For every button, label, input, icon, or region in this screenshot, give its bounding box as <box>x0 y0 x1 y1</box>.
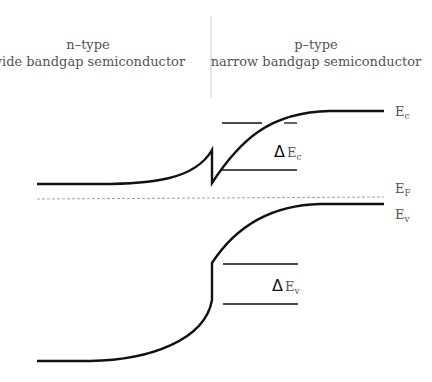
ef-label: EF <box>395 181 411 198</box>
fermi-level-line <box>37 197 384 199</box>
right-type-label: p–type <box>294 37 338 52</box>
valence-band-edge <box>37 204 384 361</box>
left-type-label: n–type <box>66 37 110 52</box>
delta-ec-label: ΔEc <box>274 142 302 162</box>
heterojunction-svg: n–type wide bandgap semiconductor p–type… <box>0 0 432 382</box>
ev-label: Ev <box>395 207 411 224</box>
delta-ev-label: ΔEv <box>272 276 300 296</box>
band-diagram: n–type wide bandgap semiconductor p–type… <box>0 0 432 382</box>
conduction-band-edge <box>37 111 384 184</box>
left-material-label: wide bandgap semiconductor <box>0 54 186 69</box>
right-material-label: narrow bandgap semiconductor <box>211 54 422 69</box>
ec-label: Ec <box>395 104 410 121</box>
